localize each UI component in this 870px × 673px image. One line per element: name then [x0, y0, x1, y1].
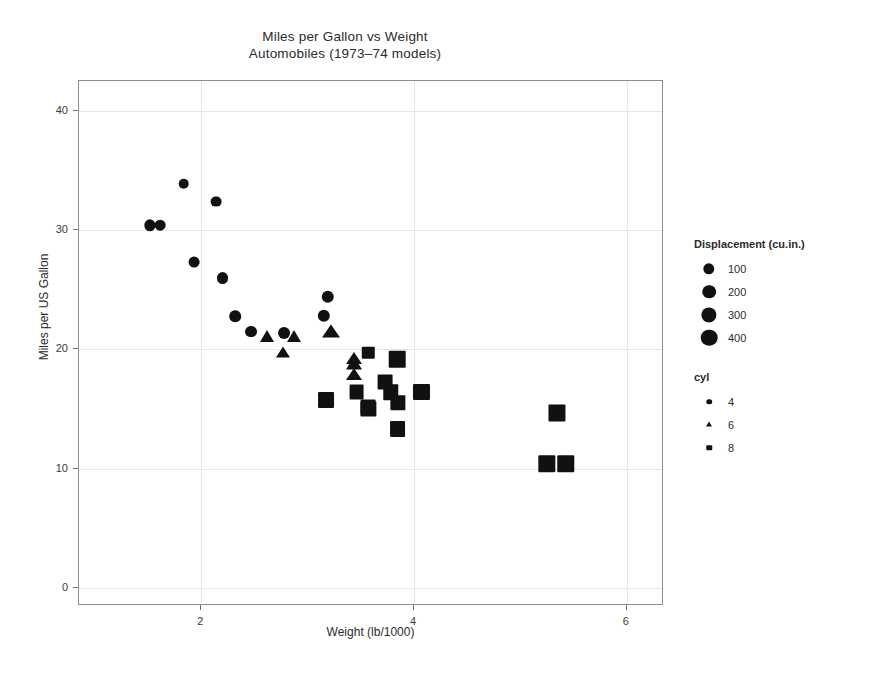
legend-circle-icon: [694, 257, 724, 280]
chart-legend: Displacement (cu.in.) 100200300400 cyl 4…: [694, 238, 864, 459]
data-point: [413, 384, 429, 400]
x-axis-tick: [200, 605, 201, 610]
data-point: [322, 325, 340, 338]
y-axis-tick-label: 10: [30, 462, 68, 474]
legend-triangle-icon: [694, 413, 724, 436]
data-point: [349, 385, 364, 400]
data-point: [317, 310, 329, 322]
legend-circle-icon: [694, 390, 724, 413]
data-point: [217, 272, 229, 284]
data-point: [390, 421, 406, 437]
gridline-horizontal: [79, 111, 662, 112]
data-point: [549, 404, 566, 421]
legend-item-displacement[interactable]: 400: [694, 326, 864, 349]
gridline-horizontal: [79, 588, 662, 589]
data-point: [245, 326, 257, 338]
data-point: [155, 220, 166, 231]
x-axis-tick: [413, 605, 414, 610]
legend-item-label: 4: [728, 396, 734, 408]
y-axis-tick-label: 30: [30, 223, 68, 235]
plot-panel: [78, 80, 663, 605]
data-point: [346, 352, 362, 364]
gridline-vertical: [201, 81, 202, 604]
x-axis-tick: [626, 605, 627, 610]
y-axis-tick-label: 0: [30, 581, 68, 593]
y-axis-tick: [73, 229, 78, 230]
legend-shape-group: 468: [694, 390, 864, 459]
page-title: Miles per Gallon vs Weight: [0, 28, 690, 45]
legend-size-group: 100200300400: [694, 257, 864, 349]
data-point: [318, 392, 334, 408]
legend-item-label: 6: [728, 419, 734, 431]
data-point: [189, 257, 200, 268]
gridline-vertical: [627, 81, 628, 604]
chart-subtitle: Automobiles (1973–74 models): [0, 45, 690, 62]
legend-title-displacement: Displacement (cu.in.): [694, 238, 864, 250]
legend-item-cyl[interactable]: 8: [694, 436, 864, 459]
legend-circle-icon: [694, 326, 724, 349]
chart-title-block: Miles per Gallon vs Weight Automobiles (…: [0, 28, 690, 63]
legend-title-cyl: cyl: [694, 371, 864, 383]
legend-item-label: 8: [728, 442, 734, 454]
legend-item-label: 400: [728, 332, 746, 344]
y-axis-tick: [73, 348, 78, 349]
legend-item-cyl[interactable]: 4: [694, 390, 864, 413]
legend-circle-icon: [694, 280, 724, 303]
data-point: [390, 396, 405, 411]
legend-item-displacement[interactable]: 200: [694, 280, 864, 303]
x-axis-tick-label: 6: [623, 615, 629, 627]
data-point: [362, 347, 374, 359]
data-point: [389, 351, 406, 368]
data-point: [557, 455, 574, 472]
legend-item-label: 200: [728, 286, 746, 298]
legend-circle-icon: [694, 303, 724, 326]
x-axis-tick-label: 4: [410, 615, 416, 627]
legend-item-cyl[interactable]: 6: [694, 413, 864, 436]
x-axis-label: Weight (lb/1000): [78, 625, 663, 639]
data-point: [361, 402, 376, 417]
legend-item-displacement[interactable]: 100: [694, 257, 864, 280]
data-point: [287, 330, 301, 342]
data-point: [276, 346, 290, 357]
data-point: [322, 291, 334, 303]
legend-item-label: 300: [728, 309, 746, 321]
y-axis-tick: [73, 468, 78, 469]
legend-item-displacement[interactable]: 300: [694, 303, 864, 326]
data-point: [346, 368, 362, 380]
y-axis-tick: [73, 587, 78, 588]
data-point: [260, 330, 274, 342]
gridline-horizontal: [79, 469, 662, 470]
y-axis-tick: [73, 110, 78, 111]
x-axis-tick-label: 2: [197, 615, 203, 627]
y-axis-tick-label: 20: [30, 342, 68, 354]
chart-figure: Miles per Gallon vs Weight Automobiles (…: [0, 0, 870, 673]
y-axis-tick-label: 40: [30, 104, 68, 116]
data-point: [538, 455, 555, 472]
data-point: [230, 310, 242, 322]
legend-square-icon: [694, 436, 724, 459]
legend-item-label: 100: [728, 263, 746, 275]
gridline-horizontal: [79, 230, 662, 231]
gridline-vertical: [414, 81, 415, 604]
data-point: [178, 178, 189, 189]
data-point: [211, 196, 222, 207]
